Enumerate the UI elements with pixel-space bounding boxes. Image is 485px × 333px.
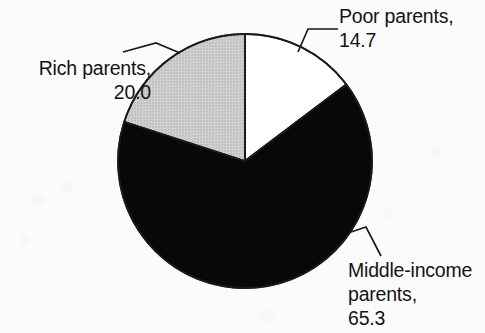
pie-chart-figure: Poor parents, 14.7 Rich parents, 20.0 Mi…	[0, 0, 485, 333]
slice-label-middle-value: 65.3	[348, 306, 472, 330]
leader-line-middle-income	[351, 227, 381, 256]
slice-label-poor: Poor parents, 14.7	[339, 4, 453, 52]
leader-line-rich	[123, 43, 180, 53]
slice-label-middle-line1: Middle-income	[348, 258, 472, 282]
slice-label-rich-line1: Rich parents,	[6, 56, 151, 80]
slice-label-rich-value: 20.0	[6, 80, 151, 104]
slice-label-middle-income: Middle-income parents, 65.3	[348, 258, 472, 330]
slice-label-rich: Rich parents, 20.0	[6, 56, 151, 104]
slice-label-poor-line1: Poor parents,	[339, 4, 453, 28]
slice-label-middle-line2: parents,	[348, 282, 472, 306]
slice-label-poor-value: 14.7	[339, 28, 453, 52]
